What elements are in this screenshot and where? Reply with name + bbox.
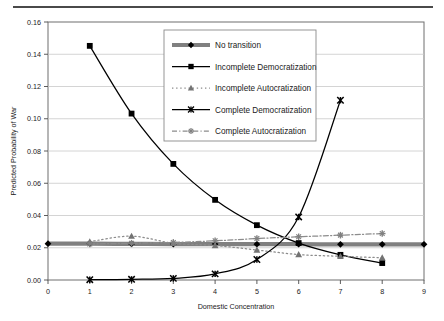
x-tick-label: 6 [297, 287, 301, 296]
y-axis-title: Predicted Probability of War [9, 106, 18, 195]
x-tick-label: 4 [213, 287, 217, 296]
y-tick-label: 0.10 [27, 114, 41, 123]
x-axis-tick-labels: 0 1 2 3 4 5 6 7 8 9 [46, 287, 426, 296]
y-tick-label: 0.06 [27, 179, 41, 188]
legend-label: Complete Autocratization [215, 127, 306, 136]
y-axis-tick-labels: 0.16 0.14 0.12 0.10 0.08 0.06 0.04 0.02 … [27, 18, 41, 285]
x-tick-label: 2 [130, 287, 134, 296]
legend-label: No transition [215, 41, 261, 50]
y-tick-label: 0.02 [27, 243, 41, 252]
legend-label: Incomplete Autocratization [215, 84, 311, 93]
x-axis-ticks [48, 280, 424, 284]
chart-legend: No transitionIncomplete DemocratizationI… [164, 30, 317, 141]
x-tick-label: 3 [171, 287, 175, 296]
x-axis-title: Domestic Concentration [198, 302, 275, 311]
chart-canvas: 0.16 0.14 0.12 0.10 0.08 0.06 0.04 0.02 … [0, 0, 444, 321]
y-tick-label: 0.04 [27, 211, 41, 220]
x-tick-label: 7 [338, 287, 342, 296]
legend-label: Complete Democratization [215, 106, 312, 115]
y-tick-label: 0.08 [27, 147, 41, 156]
y-tick-label: 0.16 [27, 18, 41, 27]
x-tick-label: 1 [88, 287, 92, 296]
legend-label: Incomplete Democratization [215, 63, 317, 72]
figure-container: 0.16 0.14 0.12 0.10 0.08 0.06 0.04 0.02 … [0, 0, 444, 321]
x-tick-label: 5 [255, 287, 259, 296]
x-tick-label: 0 [46, 287, 50, 296]
x-tick-label: 9 [422, 287, 426, 296]
x-tick-label: 8 [380, 287, 384, 296]
y-tick-label: 0.12 [27, 82, 41, 91]
y-tick-label: 0.00 [27, 276, 41, 285]
y-tick-label: 0.14 [27, 50, 41, 59]
